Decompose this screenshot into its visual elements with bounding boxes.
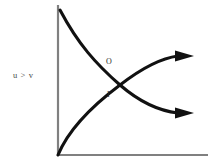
figure-container: u > v O I (0, 0, 214, 162)
condition-label: u > v (13, 70, 34, 80)
input-curve-label: I (107, 90, 110, 99)
rising-curve-O (58, 56, 178, 155)
rising-curve-arrowhead-icon (175, 51, 194, 62)
output-curve-label: O (106, 57, 112, 66)
curve-diagram (0, 0, 214, 162)
decaying-curve-arrowhead-icon (175, 108, 194, 119)
